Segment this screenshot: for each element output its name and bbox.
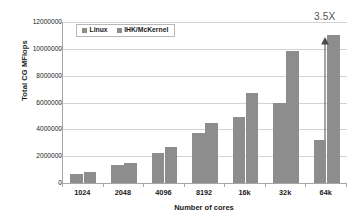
x-axis-title: Number of cores <box>62 203 346 212</box>
bar-groups <box>63 22 347 183</box>
legend-label: IHK/McKernel <box>124 27 168 34</box>
bar-group <box>152 22 178 183</box>
bar <box>70 174 83 183</box>
annotation-arrow-icon <box>320 37 329 140</box>
bar-group <box>192 22 218 183</box>
y-axis-tick-label: 6000000 <box>18 99 62 106</box>
legend-item: Linux <box>82 27 108 34</box>
y-axis-tick-label: 10000000 <box>18 46 62 53</box>
bar <box>84 172 97 183</box>
bar <box>286 51 299 183</box>
annotation-label-3-5x: 3.5X <box>314 11 335 22</box>
y-axis-tick-label: 0 <box>18 180 62 187</box>
x-axis-tick-label: 4096 <box>155 188 171 197</box>
bar <box>152 153 165 183</box>
plot-area <box>62 22 346 183</box>
x-axis-tick <box>62 183 63 187</box>
x-axis-tick-label: 64k <box>320 188 332 197</box>
bar <box>165 147 178 183</box>
bar <box>111 165 124 183</box>
bar-group <box>233 22 259 183</box>
y-axis-tick-label: 12000000 <box>18 19 62 26</box>
x-axis-tick <box>224 183 225 187</box>
bar <box>192 133 205 183</box>
x-axis-tick <box>265 183 266 187</box>
bar <box>246 93 259 183</box>
x-axis-tick <box>346 183 347 187</box>
legend-swatch-icon <box>82 28 87 33</box>
x-axis-tick <box>184 183 185 187</box>
bar-group <box>273 22 299 183</box>
x-axis-tick-labels: 102420484096819216k32k64k <box>62 188 346 200</box>
legend-swatch-icon <box>117 28 122 33</box>
bar-group <box>111 22 137 183</box>
x-axis-tick <box>143 183 144 187</box>
legend-label: Linux <box>90 27 108 34</box>
bar <box>205 123 218 183</box>
x-axis-tick-label: 1024 <box>74 188 90 197</box>
x-axis-tick <box>305 183 306 187</box>
legend-item: IHK/McKernel <box>117 27 169 34</box>
bar <box>273 103 286 184</box>
x-axis-ticks <box>62 183 346 187</box>
x-axis-tick-label: 32k <box>279 188 291 197</box>
y-axis-tick-label: 8000000 <box>18 72 62 79</box>
bar <box>124 163 137 183</box>
bar-chart: Total CG MFlops 020000004000000600000080… <box>0 0 361 220</box>
x-axis-tick-label: 2048 <box>115 188 131 197</box>
x-axis-tick <box>103 183 104 187</box>
bar <box>314 140 327 183</box>
y-axis-tick-labels: 0200000040000006000000800000010000000120… <box>18 0 62 220</box>
bar <box>233 117 246 183</box>
y-axis-tick-label: 4000000 <box>18 126 62 133</box>
y-axis-tick-label: 2000000 <box>18 153 62 160</box>
legend: LinuxIHK/McKernel <box>76 24 175 37</box>
x-axis-tick-label: 16k <box>238 188 250 197</box>
bar-group <box>70 22 96 183</box>
x-axis-tick-label: 8192 <box>196 188 212 197</box>
